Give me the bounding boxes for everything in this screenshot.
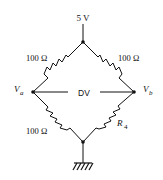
node-va-label: V a xyxy=(14,84,24,97)
node-vb xyxy=(132,90,136,94)
node-top xyxy=(81,40,85,44)
svg-text:a: a xyxy=(20,89,24,97)
svg-text:b: b xyxy=(149,89,153,97)
resistor-bottom-left-label: 100 Ω xyxy=(26,126,47,136)
resistor-bottom-right-label: R 4 xyxy=(116,118,128,131)
resistor-top-right xyxy=(83,42,134,92)
node-bottom xyxy=(81,140,85,144)
node-vb-label: V b xyxy=(143,84,153,97)
resistor-top-left xyxy=(33,42,83,92)
wheatstone-bridge-diagram: 5 V 100 Ω 100 Ω 100 Ω R 4 DV V a V b xyxy=(0,0,163,180)
resistor-bottom-right xyxy=(83,92,134,142)
node-va xyxy=(31,90,35,94)
resistor-top-right-label: 100 Ω xyxy=(118,53,139,63)
r4-main: R xyxy=(116,118,123,128)
ground-icon xyxy=(73,163,93,170)
differential-voltage-label: DV xyxy=(78,88,90,98)
r4-sub: 4 xyxy=(124,123,128,131)
resistor-top-left-label: 100 Ω xyxy=(26,53,47,63)
supply-label: 5 V xyxy=(76,13,90,23)
